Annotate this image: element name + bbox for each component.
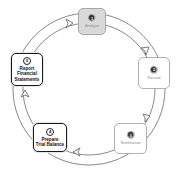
chevron-arrow-icon	[143, 114, 150, 122]
step-number-badge: 3	[127, 131, 135, 139]
step-analyze: 1 Analyze	[78, 8, 106, 35]
step-label: Summarize	[120, 140, 140, 145]
chevron-arrow-icon	[66, 19, 73, 28]
chevron-arrow-icon	[73, 148, 80, 156]
chevron-arrow-icon	[21, 90, 29, 97]
step-label: Record	[148, 75, 161, 80]
step-number-badge: 1	[88, 14, 96, 22]
step-number-badge: 5	[23, 57, 31, 65]
step-number-badge: 2	[150, 66, 158, 74]
step-label: Report Financial Statements	[15, 66, 40, 82]
step-summarize: 3 Summarize	[114, 123, 147, 154]
step-report-financial-statements: 5 Report Financial Statements	[11, 53, 43, 86]
step-label: Analyze	[85, 23, 99, 28]
step-record: 2 Record	[138, 57, 170, 89]
step-label: Prepare Trial Balance	[36, 137, 64, 148]
step-prepare-trial-balance: 4 Prepare Trial Balance	[33, 123, 67, 152]
step-number-badge: 4	[46, 128, 54, 136]
